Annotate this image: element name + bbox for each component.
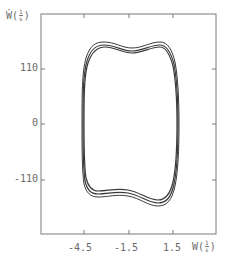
- y-axis-unit-fraction: 1s: [19, 9, 23, 22]
- y-tick-label-0: 0: [8, 117, 38, 128]
- y-tick-label-110: 110: [8, 62, 38, 73]
- orbit-outer: [82, 42, 179, 206]
- plot-frame: [41, 14, 216, 234]
- orbits: [82, 42, 179, 206]
- orbit-inner: [84, 47, 177, 200]
- x-axis-symbol: W: [192, 241, 198, 252]
- phase-plot: [0, 0, 231, 265]
- x-unit-denominator: s: [205, 247, 209, 253]
- x-axis-unit-fraction: 1s: [205, 240, 209, 253]
- orbit-middle: [83, 45, 178, 203]
- x-tick-label-neg1.5: -1.5: [114, 242, 138, 253]
- y-axis-label: Ẇ(1s): [6, 9, 30, 22]
- y-unit-denominator: s: [19, 16, 23, 22]
- x-tick-label-neg4.5: -4.5: [68, 242, 92, 253]
- y-ticks: [41, 69, 216, 180]
- x-tick-label-1.5: 1.5: [163, 242, 181, 253]
- y-axis-symbol: Ẇ: [6, 10, 12, 21]
- y-tick-label-neg110: -110: [8, 173, 38, 184]
- x-axis-label: W(1s): [192, 240, 216, 253]
